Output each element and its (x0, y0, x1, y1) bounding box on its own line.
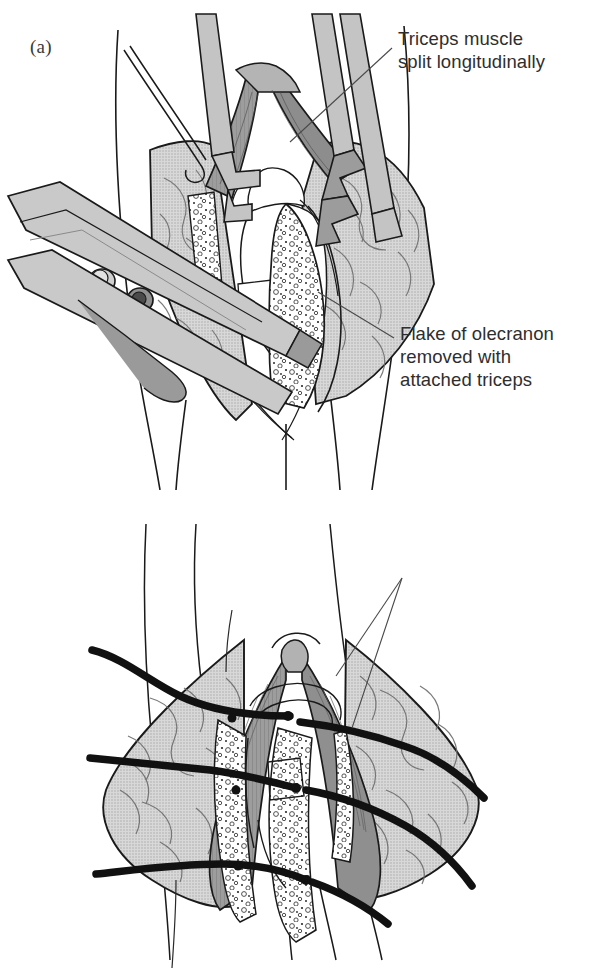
panel-a-illustration (0, 0, 591, 490)
panel-a-letter: (a) (30, 36, 52, 58)
cancellous-bone-center (269, 728, 316, 942)
figure-root: (a) Triceps muscle split longitudinally … (0, 0, 591, 976)
panel-a-osteotomy: (a) Triceps muscle split longitudinally … (0, 0, 591, 490)
panel-b-illustration (0, 490, 591, 976)
callout-olecranon-flake: Flake of olecranon removed with attached… (400, 322, 554, 391)
panel-b-reattachment: (b) Reattachment of triceps to bone (0, 490, 591, 976)
callout-triceps-split: Triceps muscle split longitudinally (398, 27, 545, 73)
